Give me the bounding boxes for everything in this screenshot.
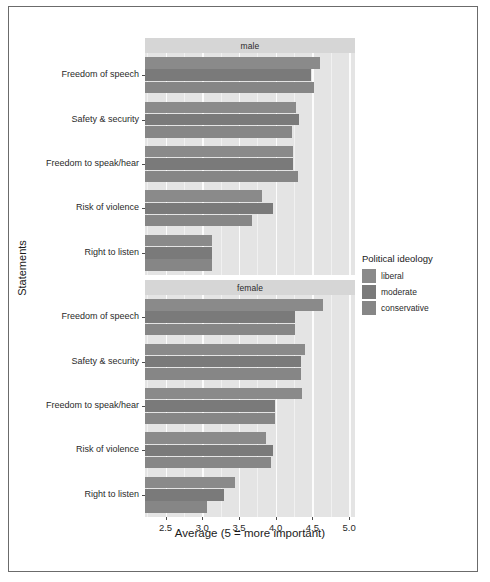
- facet-strip-label-male: male: [145, 38, 355, 53]
- legend-title: Political ideology: [362, 253, 480, 264]
- legend-item-conservative: conservative: [362, 300, 480, 315]
- bar-female-liberal: [145, 432, 266, 444]
- gridline-minor: [331, 295, 332, 517]
- bar-female-conservative: [145, 368, 301, 380]
- legend-item-liberal: liberal: [362, 268, 480, 283]
- legend-items: liberalmoderateconservative: [362, 268, 480, 315]
- x-tick-label: 2.5: [151, 522, 181, 533]
- y-tick-label: Right to listen: [0, 489, 139, 499]
- facet-panel-male: male: [145, 38, 355, 275]
- bar-male-liberal: [145, 102, 296, 114]
- bar-female-moderate: [145, 356, 301, 368]
- legend-item-moderate: moderate: [362, 284, 480, 299]
- x-tick-mark: [312, 517, 313, 520]
- x-tick-mark: [276, 517, 277, 520]
- x-tick-mark: [349, 517, 350, 520]
- bar-male-moderate: [145, 158, 293, 170]
- bar-female-liberal: [145, 344, 305, 356]
- y-tick-mark: [142, 253, 145, 254]
- y-tick-label: Freedom to speak/hear: [0, 400, 139, 410]
- bar-female-liberal: [145, 388, 302, 400]
- y-tick-mark: [142, 406, 145, 407]
- gridline-major: [312, 295, 313, 517]
- facet-panel-body-female: [145, 295, 355, 517]
- x-tick-mark: [202, 517, 203, 520]
- bar-male-conservative: [145, 126, 292, 138]
- legend-swatch-conservative: [362, 301, 376, 315]
- bar-male-liberal: [145, 146, 293, 158]
- bar-male-moderate: [145, 203, 273, 215]
- bar-female-liberal: [145, 299, 323, 311]
- chart-plot-root: Statements Average (5 = more important) …: [0, 0, 490, 582]
- bar-female-conservative: [145, 324, 295, 336]
- bar-male-liberal: [145, 57, 320, 69]
- gridline-major: [349, 295, 350, 517]
- bar-male-conservative: [145, 171, 298, 183]
- y-tick-label: Freedom of speech: [0, 311, 139, 321]
- bar-male-moderate: [145, 247, 212, 259]
- legend-label-moderate: moderate: [381, 287, 417, 297]
- y-tick-label: Freedom to speak/hear: [0, 158, 139, 168]
- legend-label-conservative: conservative: [381, 303, 429, 313]
- y-tick-label: Safety & security: [0, 114, 139, 124]
- y-tick-label: Risk of violence: [0, 202, 139, 212]
- legend-label-liberal: liberal: [381, 271, 404, 281]
- bar-female-conservative: [145, 457, 271, 469]
- y-tick-label: Freedom of speech: [0, 69, 139, 79]
- legend-swatch-liberal: [362, 269, 376, 283]
- bar-female-moderate: [145, 445, 273, 457]
- bar-male-conservative: [145, 215, 252, 227]
- y-tick-label: Right to listen: [0, 247, 139, 257]
- facet-panel-female: female: [145, 280, 355, 517]
- y-tick-mark: [142, 495, 145, 496]
- chart-legend: Political ideology liberalmoderateconser…: [362, 253, 480, 316]
- y-tick-mark: [142, 450, 145, 451]
- legend-swatch-moderate: [362, 285, 376, 299]
- bar-male-liberal: [145, 235, 212, 247]
- x-tick-label: 3.5: [224, 522, 254, 533]
- bar-male-moderate: [145, 69, 311, 81]
- bar-female-conservative: [145, 501, 207, 513]
- y-tick-mark: [142, 208, 145, 209]
- x-tick-label: 3.0: [187, 522, 217, 533]
- bar-female-moderate: [145, 311, 295, 323]
- gridline-major: [349, 53, 350, 275]
- bar-male-liberal: [145, 190, 262, 202]
- facet-panel-body-male: [145, 53, 355, 275]
- x-tick-label: 4.5: [297, 522, 327, 533]
- bar-male-conservative: [145, 82, 314, 94]
- bar-female-moderate: [145, 400, 275, 412]
- y-tick-mark: [142, 75, 145, 76]
- bar-male-moderate: [145, 114, 299, 126]
- facet-strip-label-female: female: [145, 280, 355, 295]
- x-tick-label: 5.0: [334, 522, 364, 533]
- y-tick-mark: [142, 317, 145, 318]
- y-tick-mark: [142, 164, 145, 165]
- x-tick-mark: [239, 517, 240, 520]
- bar-male-conservative: [145, 259, 212, 271]
- y-tick-label: Risk of violence: [0, 444, 139, 454]
- y-tick-label: Safety & security: [0, 356, 139, 366]
- y-tick-mark: [142, 120, 145, 121]
- bar-female-liberal: [145, 477, 235, 489]
- x-tick-label: 4.0: [261, 522, 291, 533]
- bar-female-conservative: [145, 413, 275, 425]
- y-tick-mark: [142, 362, 145, 363]
- gridline-minor: [331, 53, 332, 275]
- x-tick-mark: [166, 517, 167, 520]
- bar-female-moderate: [145, 489, 224, 501]
